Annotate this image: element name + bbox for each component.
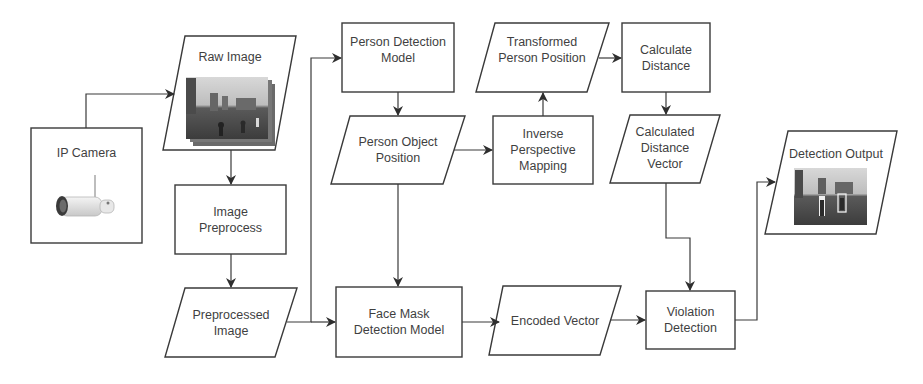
raw-image-label: Raw Image	[175, 46, 285, 68]
detection-output-label: Detection Output	[780, 144, 892, 164]
calculated-distance-vector-label: Calculated Distance Vector	[615, 122, 715, 174]
edge-violation-to-output	[735, 182, 775, 320]
edge-camera-to-raw-image	[86, 94, 174, 128]
park-scene-image-stack	[186, 77, 275, 146]
edge-vector-to-violation	[666, 183, 690, 290]
encoded-vector-label: Encoded Vector	[495, 310, 615, 332]
violation-detection-label: Violation Detection	[646, 300, 735, 340]
inverse-perspective-mapping-label: Inverse Perspective Mapping	[493, 124, 593, 176]
transformed-person-position-label: Transformed Person Position	[482, 30, 602, 70]
person-object-position-label: Person Object Position	[338, 126, 458, 174]
preprocessed-image-label: Preprocessed Image	[172, 298, 290, 348]
image-preprocess-label: Image Preprocess	[175, 195, 286, 245]
person-detection-model-label: Person Detection Model	[342, 32, 454, 68]
detection-result-image	[794, 168, 867, 225]
edge-preprocessed-to-person-detection	[287, 58, 341, 322]
ip-camera-label: IP Camera	[31, 140, 142, 166]
calculate-distance-label: Calculate Distance	[622, 40, 710, 76]
face-mask-detection-model-label: Face Mask Detection Model	[336, 300, 462, 344]
